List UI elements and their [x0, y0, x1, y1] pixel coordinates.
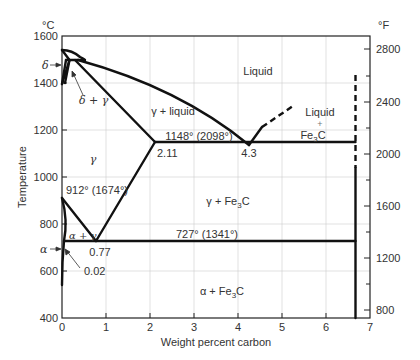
x-tick-label: 5: [279, 321, 285, 333]
label-liquid-fe3c-plus: +: [317, 119, 322, 129]
annotation-eutectoid-temp: 727° (1341°): [176, 228, 238, 240]
dashed-boundaries: [262, 75, 356, 168]
y-tick-label-right: 1600: [376, 200, 400, 212]
y-tick-label: 400: [40, 312, 58, 324]
annotation-eutectoid-c: 0.77: [89, 246, 110, 258]
y-tick-label: 1400: [34, 77, 58, 89]
label-alpha-gamma: α + γ: [69, 230, 96, 241]
y-tick-label: 1200: [34, 124, 58, 136]
annotation-a3-temp: 912° (1674°): [66, 184, 128, 196]
y-tick-label-right: 2000: [376, 148, 400, 160]
grid: [62, 36, 370, 318]
y-tick-label: 800: [40, 218, 58, 230]
x-tick-label: 3: [191, 321, 197, 333]
x-tick-label: 7: [367, 321, 373, 333]
y-tick-labels-right: 800 1200 1600 2000 2400 2800: [376, 43, 400, 316]
unit-celsius: °C: [42, 19, 54, 31]
x-tick-label: 2: [147, 321, 153, 333]
label-liquid: Liquid: [243, 65, 272, 77]
x-tick-labels: 0 1 2 3 4 5 6 7: [59, 321, 373, 333]
x-tick-label: 6: [323, 321, 329, 333]
x-tick-label: 0: [59, 321, 65, 333]
y-tick-label-right: 1200: [376, 252, 400, 264]
annotation-eutectic-c: 4.3: [241, 147, 256, 159]
annotation-eutectic-temp: 1148° (2098°): [165, 130, 232, 142]
label-alpha: α: [40, 243, 48, 256]
label-gamma-liquid: γ + liquid: [151, 105, 195, 117]
y-axis-title: Temperature: [16, 146, 28, 208]
label-liquid-fe3c-1: Liquid: [305, 106, 334, 118]
x-ticks: [106, 313, 326, 318]
y-tick-label: 1000: [34, 171, 58, 183]
y-tick-label-right: 800: [376, 304, 394, 316]
x-axis-title: Weight percent carbon: [161, 336, 271, 348]
label-delta-gamma: δ + γ: [79, 94, 109, 107]
y-tick-labels-left: 400 600 800 1000 1200 1400 1600: [34, 30, 58, 324]
label-gamma-fe3c: γ + Fe3C: [206, 195, 249, 210]
y-tick-label: 1600: [34, 30, 58, 42]
unit-fahrenheit: °F: [378, 19, 389, 31]
y-tick-label-right: 2400: [376, 96, 400, 108]
label-alpha-fe3c: α + Fe3C: [200, 285, 244, 300]
x-tick-label: 1: [103, 321, 109, 333]
label-delta: δ: [42, 59, 49, 72]
x-tick-label: 4: [235, 321, 241, 333]
annotation-eutectic-c-left: 2.11: [157, 147, 178, 159]
label-gamma: γ: [90, 153, 97, 166]
phase-diagram: 0 1 2 3 4 5 6 7 400 600 800 1000 1200 14…: [0, 0, 420, 360]
annotation-alpha-max-c: 0.02: [84, 265, 105, 277]
y-tick-label: 600: [40, 265, 58, 277]
y-tick-label-right: 2800: [376, 43, 400, 55]
